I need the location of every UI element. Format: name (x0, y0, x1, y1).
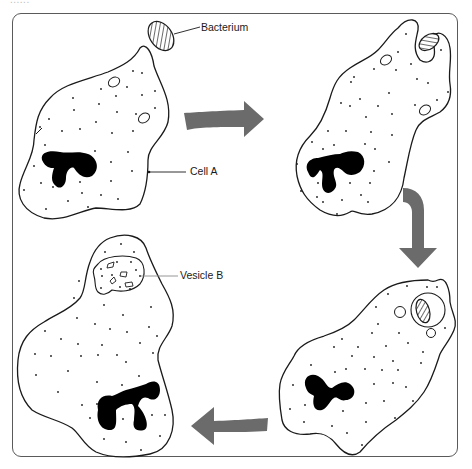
cell-a-label: Cell A (190, 166, 217, 177)
stage-4-vesicle-b (18, 235, 178, 457)
bacterium-label: Bacterium (201, 22, 248, 33)
phagocytosis-diagram (0, 0, 472, 469)
vesicle-b-label: Vesicle B (180, 270, 223, 281)
cell-a-membrane (19, 46, 169, 219)
arrow-left-icon (191, 407, 268, 445)
bacterium-leader-line (174, 27, 200, 34)
stage-3-phagosome (279, 279, 455, 455)
arrow-down-icon (399, 188, 437, 268)
stage-1-cell-a (19, 17, 200, 219)
stage-2-engulfing (296, 20, 450, 216)
arrow-right-icon (184, 101, 264, 137)
